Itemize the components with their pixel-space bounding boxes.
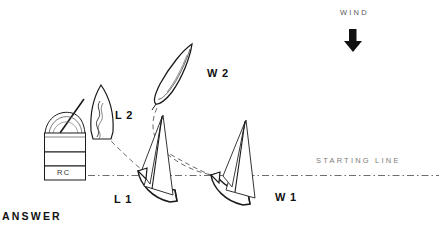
wind-label: WIND — [340, 9, 369, 17]
w2-hull — [155, 44, 192, 104]
track-l2-to-l1 — [105, 135, 141, 169]
track-dash-l — [105, 135, 141, 169]
rc-canopy-outer — [45, 112, 85, 133]
rc-hull-mid — [45, 152, 86, 166]
diagram-canvas: WIND STARTING LINE W 2 L 2 L 1 W 1 RC AN… — [0, 0, 439, 232]
answer-label: ANSWER — [2, 211, 62, 222]
rc-canopy-inner-2 — [53, 122, 78, 133]
rc-hull-upper — [45, 133, 86, 152]
w2-rudder — [152, 104, 156, 110]
wind-arrow-shaft — [349, 29, 357, 43]
boat-l1 — [138, 115, 177, 202]
sailing-tactics-diagram — [0, 0, 439, 232]
boat-label-l2: L 2 — [115, 110, 133, 121]
boat-label-w2: W 2 — [207, 68, 229, 79]
boat-label-w1: W 1 — [275, 192, 297, 203]
rc-boat-label: RC — [57, 169, 71, 177]
rc-flagpole — [60, 99, 84, 133]
boat-w1 — [211, 120, 255, 205]
boat-w2 — [152, 44, 192, 110]
boat-l2 — [91, 85, 113, 139]
wind-arrow-icon — [344, 29, 362, 52]
starting-line-label: STARTING LINE — [316, 157, 401, 165]
boat-label-l1: L 1 — [114, 194, 132, 205]
wind-arrow-head — [344, 41, 362, 52]
